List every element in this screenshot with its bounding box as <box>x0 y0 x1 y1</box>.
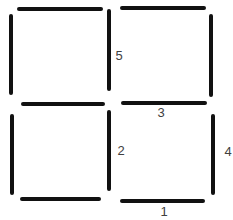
label-2: 2 <box>117 143 124 158</box>
matchstick-diagram: 5 3 2 4 1 <box>0 0 233 220</box>
label-5: 5 <box>115 48 122 63</box>
label-4: 4 <box>224 144 231 159</box>
label-3: 3 <box>157 105 164 120</box>
label-1: 1 <box>160 204 167 219</box>
square-bottom-left <box>12 112 109 199</box>
square-top-right <box>122 8 211 103</box>
square-top-left <box>11 9 109 104</box>
square-bottom-right <box>122 116 213 201</box>
